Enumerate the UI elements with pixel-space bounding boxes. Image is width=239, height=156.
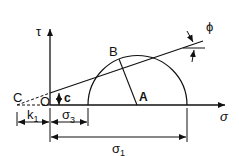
mohr-circle-diagram: τ σ ϕ B A C O c k1 σ3 σ1	[0, 0, 239, 156]
point-B-label: B	[109, 44, 118, 59]
phi-arrow-bottom	[192, 50, 194, 62]
sigma-axis-label: σ	[220, 109, 229, 124]
tau-label: τ	[36, 24, 42, 39]
c-label: c	[64, 91, 71, 105]
k1-label: k1	[27, 107, 39, 124]
phi-arrow-top	[187, 31, 193, 42]
failure-envelope	[50, 41, 203, 93]
point-O-label: O	[40, 94, 50, 109]
point-C-label: C	[13, 90, 22, 105]
point-A-label: A	[139, 90, 148, 104]
phi-label: ϕ	[206, 19, 213, 34]
sigma1-label: σ1	[112, 141, 125, 156]
